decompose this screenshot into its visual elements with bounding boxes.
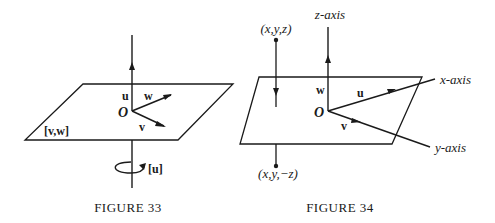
label-y-axis: y-axis [433,140,466,155]
w-arrowhead-icon [163,94,172,100]
label-point-below: (x,y,−z) [258,166,298,181]
u-arrowhead-icon [129,62,135,70]
label-u: u [122,89,129,103]
figure-canvas: u w O v [v,w] [u] FIGURE 33 z-axis (x,y,… [0,0,495,223]
label-w: w [316,83,325,97]
label-u: u [357,86,364,100]
caption-figure-34: FIGURE 34 [306,200,374,215]
reflection-arrowhead-icon [273,88,279,96]
x-axis-line [328,79,435,111]
label-point-above: (x,y,z) [260,21,291,36]
v-arrowhead-icon [155,121,166,127]
label-x-axis: x-axis [439,72,471,87]
label-v: v [139,120,145,134]
figure-33: u w O v [v,w] [u] FIGURE 33 [25,35,233,215]
label-rotation-u: [u] [148,162,163,176]
label-origin: O [118,105,128,120]
caption-figure-33: FIGURE 33 [94,200,162,215]
label-w: w [144,89,153,103]
rotation-arc-icon [115,162,144,173]
z-arrowhead-icon [325,55,331,63]
label-plane-vw: [v,w] [44,124,69,138]
figure-34: z-axis (x,y,z) x-axis y-axis (x,y,−z) w … [240,7,471,215]
label-v: v [341,119,347,133]
label-z-axis: z-axis [314,7,345,22]
label-origin: O [314,105,324,120]
